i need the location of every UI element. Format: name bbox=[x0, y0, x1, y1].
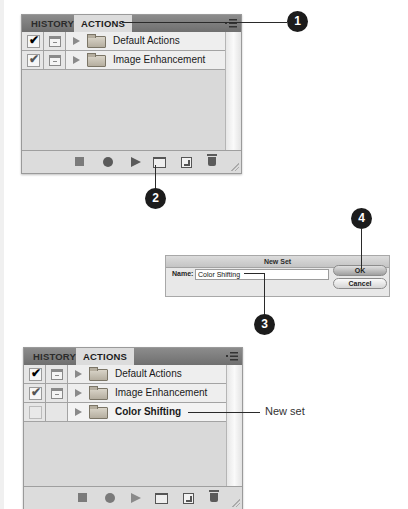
action-set-list: ✔ Default Actions ✔ Image Enhancement bbox=[22, 32, 225, 70]
callout-1: 1 bbox=[287, 11, 308, 32]
toggle-item-checkbox[interactable]: ✔ bbox=[29, 368, 42, 381]
toggle-item-checkbox[interactable]: ✔ bbox=[27, 54, 40, 67]
tab-actions[interactable]: ACTIONS bbox=[74, 15, 132, 33]
checkmark-icon: ✔ bbox=[29, 33, 39, 47]
stop-recording-icon[interactable] bbox=[78, 493, 87, 502]
annotation-leader-line bbox=[188, 412, 260, 413]
scrollbar[interactable] bbox=[225, 32, 241, 150]
new-set-annotation: New set bbox=[265, 405, 305, 417]
name-label: Name: bbox=[172, 270, 193, 277]
new-action-icon[interactable] bbox=[181, 157, 192, 168]
actions-panel-after: HISTORY ACTIONS ✔ Default Actions ✔ Im bbox=[23, 347, 243, 509]
tab-history[interactable]: HISTORY bbox=[26, 348, 83, 365]
panel-menu-icon[interactable] bbox=[225, 19, 237, 28]
cancel-button[interactable]: Cancel bbox=[333, 278, 387, 289]
toggle-dialog-icon[interactable] bbox=[51, 369, 63, 380]
callout-4: 4 bbox=[351, 208, 372, 229]
callout-2: 2 bbox=[145, 188, 166, 209]
toggle-item-checkbox[interactable] bbox=[29, 406, 42, 419]
ok-button[interactable]: OK bbox=[333, 265, 387, 276]
set-name: Default Actions bbox=[115, 365, 182, 382]
new-action-icon[interactable] bbox=[183, 493, 194, 504]
callout-leader-line bbox=[122, 22, 287, 23]
set-name: Image Enhancement bbox=[113, 51, 205, 68]
callout-leader-line bbox=[264, 273, 265, 315]
expand-triangle-icon[interactable] bbox=[75, 370, 82, 378]
callout-leader-line bbox=[361, 229, 362, 269]
actions-panel-before: HISTORY ACTIONS ✔ Default Actions ✔ Im bbox=[21, 14, 242, 174]
expand-triangle-icon[interactable] bbox=[75, 408, 82, 416]
tab-history[interactable]: HISTORY bbox=[24, 15, 81, 32]
checkmark-icon: ✔ bbox=[31, 385, 41, 399]
toggle-dialog-icon[interactable] bbox=[49, 55, 61, 66]
toggle-item-checkbox[interactable]: ✔ bbox=[29, 387, 42, 400]
action-set-row[interactable]: ✔ Image Enhancement bbox=[24, 384, 226, 403]
action-set-list: ✔ Default Actions ✔ Image Enhancement bbox=[24, 365, 226, 422]
expand-triangle-icon[interactable] bbox=[75, 389, 82, 397]
folder-icon bbox=[89, 407, 108, 419]
set-name: Default Actions bbox=[113, 32, 180, 49]
record-icon[interactable] bbox=[105, 493, 115, 503]
action-set-row[interactable]: ✔ Default Actions bbox=[22, 32, 225, 51]
panel-tab-bar: HISTORY ACTIONS bbox=[22, 15, 241, 33]
checkmark-icon: ✔ bbox=[29, 52, 39, 66]
play-icon[interactable] bbox=[131, 493, 141, 503]
resize-grip[interactable] bbox=[232, 499, 240, 507]
new-set-folder-icon[interactable] bbox=[155, 493, 168, 504]
folder-icon bbox=[87, 55, 106, 67]
play-icon[interactable] bbox=[131, 157, 141, 167]
callout-leader-line bbox=[155, 165, 156, 189]
set-name: Color Shifting bbox=[115, 403, 181, 420]
set-name-input[interactable]: Color Shifting bbox=[195, 269, 329, 280]
new-set-dialog: New Set Name: Color Shifting OK Cancel bbox=[165, 255, 390, 297]
panel-footer bbox=[24, 486, 242, 509]
expand-triangle-icon[interactable] bbox=[73, 56, 80, 64]
page-edge bbox=[0, 0, 4, 509]
panel-tab-bar: HISTORY ACTIONS bbox=[24, 348, 242, 366]
action-set-row[interactable]: ✔ Image Enhancement bbox=[22, 51, 225, 70]
expand-triangle-icon[interactable] bbox=[73, 37, 80, 45]
callout-3: 3 bbox=[254, 314, 275, 335]
trash-icon[interactable] bbox=[208, 157, 216, 166]
panel-footer bbox=[22, 150, 241, 173]
folder-icon bbox=[89, 388, 108, 400]
callout-leader-line bbox=[244, 273, 265, 274]
resize-grip[interactable] bbox=[231, 163, 239, 171]
toggle-item-checkbox[interactable]: ✔ bbox=[27, 35, 40, 48]
scrollbar[interactable] bbox=[226, 365, 242, 486]
toggle-dialog-icon[interactable] bbox=[49, 36, 61, 47]
panel-menu-icon[interactable] bbox=[226, 352, 238, 361]
trash-icon[interactable] bbox=[210, 493, 218, 502]
set-name: Image Enhancement bbox=[115, 384, 207, 401]
stop-recording-icon[interactable] bbox=[75, 157, 84, 166]
folder-icon bbox=[87, 36, 106, 48]
folder-icon bbox=[89, 369, 108, 381]
record-icon[interactable] bbox=[103, 157, 113, 167]
action-set-row[interactable]: ✔ Default Actions bbox=[24, 365, 226, 384]
toggle-dialog-icon[interactable] bbox=[51, 388, 63, 399]
checkmark-icon: ✔ bbox=[31, 366, 41, 380]
tab-actions[interactable]: ACTIONS bbox=[76, 348, 134, 366]
